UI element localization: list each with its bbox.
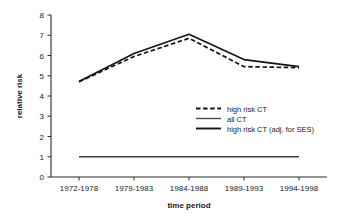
line-chart: 8 7 6 5 4 3 2 1 0 1972-1978 1979-1983 19…	[0, 0, 340, 221]
legend-label-high-risk-ct-adj-ses: high risk CT (adj. for SES)	[227, 125, 314, 134]
y-tick-label-6: 6	[40, 52, 45, 61]
y-tick-label-5: 5	[40, 72, 45, 81]
chart-legend: high risk CT all CT high risk CT (adj. f…	[196, 105, 314, 134]
x-tick-label-1994-1998: 1994-1998	[280, 184, 319, 193]
y-tick-label-7: 7	[40, 31, 45, 40]
y-tick-label-3: 3	[40, 112, 45, 121]
y-tick-label-0: 0	[40, 173, 45, 182]
chart-figure: 8 7 6 5 4 3 2 1 0 1972-1978 1979-1983 19…	[0, 0, 340, 221]
y-tick-label-1: 1	[40, 153, 45, 162]
y-tick-label-4: 4	[40, 92, 45, 101]
y-tick-label-2: 2	[40, 133, 45, 142]
x-tick-label-1972-1978: 1972-1978	[60, 184, 99, 193]
x-tick-label-1984-1988: 1984-1988	[170, 184, 209, 193]
legend-label-all-ct: all CT	[227, 115, 247, 124]
series-line-high-risk-ct	[79, 38, 299, 82]
y-tick-label-8: 8	[40, 11, 45, 20]
legend-label-high-risk-ct: high risk CT	[227, 105, 267, 114]
x-tick-label-1979-1983: 1979-1983	[115, 184, 154, 193]
series-line-high-risk-ct-adj-ses	[79, 34, 299, 81]
y-axis-title: relative risk	[15, 73, 24, 118]
x-tick-label-1989-1993: 1989-1993	[225, 184, 264, 193]
x-axis-title: time period	[167, 201, 210, 210]
